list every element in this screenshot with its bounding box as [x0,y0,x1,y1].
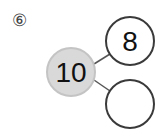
connector-line-bottom [94,80,110,91]
whole-circle: 10 [47,48,95,96]
whole-value: 10 [55,57,86,88]
number-bond-diagram: 10 8 [0,0,163,136]
part-circle-bottom[interactable] [106,80,154,128]
part-circle-top: 8 [106,17,154,65]
connector-line-top [94,54,110,64]
part-value-top: 8 [122,26,138,57]
